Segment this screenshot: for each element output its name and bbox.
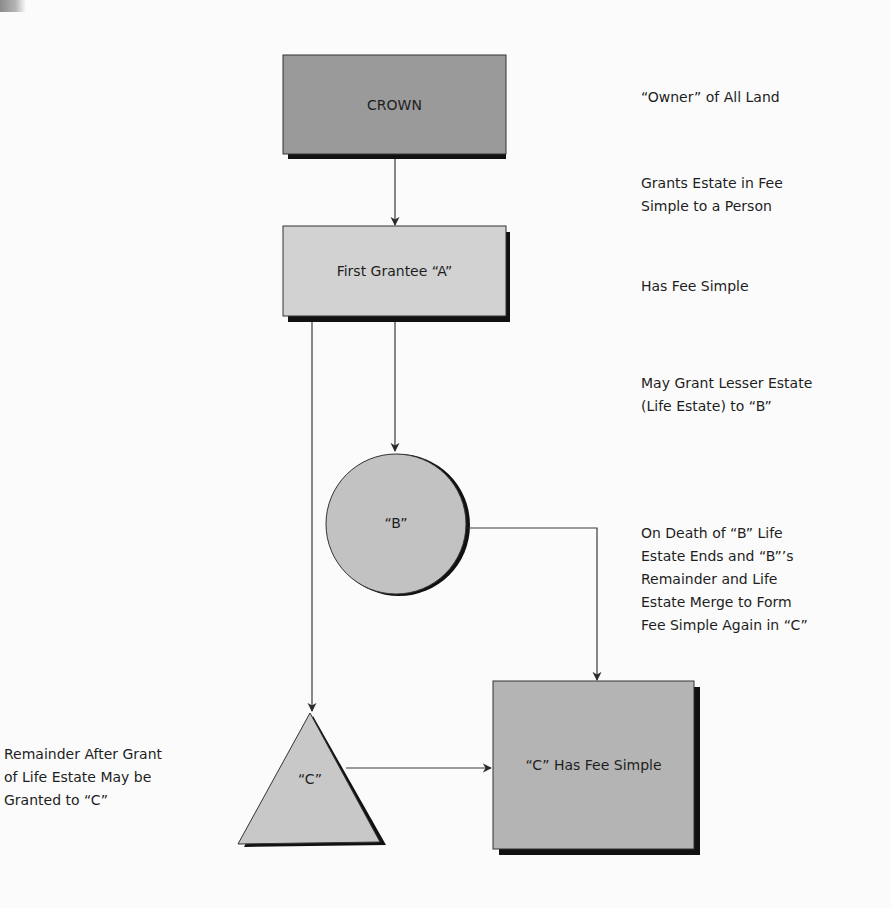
b-label: “B”	[326, 508, 466, 538]
edge-b-to-c-fee-simple	[468, 528, 597, 680]
crown-label: CROWN	[283, 55, 506, 154]
annotation-on-death: On Death of “B” Life Estate Ends and “B”…	[641, 522, 808, 637]
c-fee-simple-label: “C” Has Fee Simple	[493, 681, 694, 849]
c-triangle-label: “C”	[270, 767, 350, 791]
annotation-remainder: Remainder After Grant of Life Estate May…	[4, 743, 162, 812]
annotation-has-fee-simple: Has Fee Simple	[641, 275, 749, 298]
annotation-may-grant: May Grant Lesser Estate (Life Estate) to…	[641, 372, 812, 418]
annotation-grants: Grants Estate in Fee Simple to a Person	[641, 172, 783, 218]
first-grantee-label: First Grantee “A”	[283, 226, 506, 316]
annotation-owner: “Owner” of All Land	[641, 86, 780, 109]
